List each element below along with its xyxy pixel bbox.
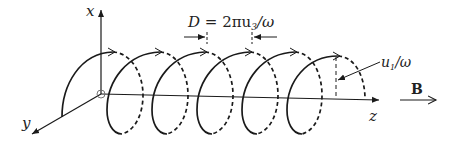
- helix-diagram: D = 2πu3/ω u1/ω x y z B: [0, 0, 458, 146]
- radius-pointer: [338, 62, 380, 80]
- x-axis-label: x: [86, 2, 95, 20]
- pitch-indicator: D = 2πu3/ω: [184, 13, 277, 44]
- y-axis: [32, 94, 101, 134]
- helix-back-3: [205, 52, 233, 134]
- radius-annotation: u1/ω: [338, 54, 412, 80]
- helix-back-2: [160, 52, 188, 134]
- magnetic-field-vector: B: [400, 81, 436, 100]
- pitch-label: D = 2πu3/ω: [187, 13, 274, 32]
- helix-back-4: [250, 52, 278, 134]
- radius-label: u1/ω: [381, 54, 412, 72]
- helix-start-arc: [62, 52, 113, 117]
- y-axis-label: y: [21, 114, 31, 132]
- field-label: B: [411, 81, 423, 97]
- helix-front-5: [287, 56, 338, 134]
- z-axis-label: z: [368, 107, 377, 125]
- helix-trajectory: [62, 48, 365, 134]
- direction-arrows: [108, 48, 340, 60]
- helix-end-arc: [338, 56, 365, 99]
